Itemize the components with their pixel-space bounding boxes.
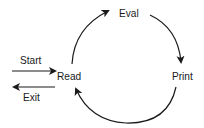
node-print: Print: [172, 71, 193, 83]
start-label: Start: [20, 55, 41, 67]
print-to-read-arrow: [76, 87, 176, 123]
read-to-eval-arrow: [72, 11, 108, 64]
eval-to-print-arrow: [150, 15, 181, 62]
node-eval: Eval: [119, 8, 139, 20]
exit-label: Exit: [23, 92, 40, 104]
node-read: Read: [57, 71, 81, 83]
